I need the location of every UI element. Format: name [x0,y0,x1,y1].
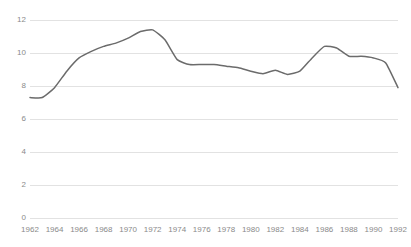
x-tick-label: 1962 [17,225,43,234]
x-tick-label: 1966 [66,225,92,234]
series-line [30,30,398,98]
y-tick-label: 4 [4,147,26,156]
x-tick-label: 1972 [140,225,166,234]
x-tick-label: 1986 [311,225,337,234]
x-tick-label: 1980 [238,225,264,234]
x-tick-label: 1978 [213,225,239,234]
y-tick-label: 6 [4,114,26,123]
x-tick-label: 1976 [189,225,215,234]
y-tick-label: 12 [4,15,26,24]
y-tick-label: 10 [4,48,26,57]
x-tick-label: 1982 [262,225,288,234]
x-tick-label: 1992 [385,225,411,234]
y-tick-label: 2 [4,180,26,189]
x-tick-label: 1964 [42,225,68,234]
x-tick-label: 1968 [91,225,117,234]
x-tick-label: 1974 [164,225,190,234]
x-tick-label: 1988 [336,225,362,234]
y-tick-label: 0 [4,213,26,222]
y-tick-label: 8 [4,81,26,90]
x-tick-label: 1990 [360,225,386,234]
gridlines-group [30,20,398,218]
x-tick-label: 1984 [287,225,313,234]
x-tick-label: 1970 [115,225,141,234]
series-group [30,30,398,98]
